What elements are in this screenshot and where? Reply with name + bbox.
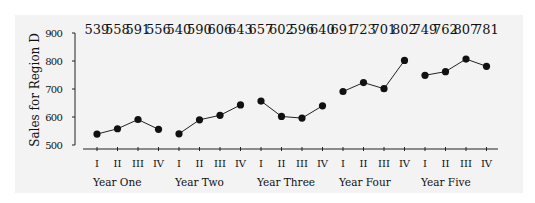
quarter-label: I bbox=[95, 158, 99, 169]
quarter-label: I bbox=[259, 158, 263, 169]
y-axis: 500600700800900 bbox=[45, 28, 75, 151]
data-point bbox=[462, 55, 469, 62]
year-group-label: Year Two bbox=[174, 176, 224, 188]
quarter-label: I bbox=[177, 158, 181, 169]
data-point bbox=[114, 125, 121, 132]
value-labels: 5395585915565405906066436576025966406917… bbox=[85, 22, 499, 37]
data-point bbox=[339, 88, 346, 95]
series-line bbox=[425, 59, 487, 75]
series-line bbox=[261, 101, 323, 118]
quarter-label: IV bbox=[235, 158, 247, 169]
data-point bbox=[483, 63, 490, 70]
quarter-label: IV bbox=[399, 158, 411, 169]
year-group-label: Year Four bbox=[338, 176, 392, 188]
data-point bbox=[155, 126, 162, 133]
y-tick-label: 500 bbox=[45, 140, 62, 151]
year-group-label: Year One bbox=[92, 176, 141, 188]
series-line bbox=[343, 60, 405, 91]
quarter-label: III bbox=[460, 158, 472, 169]
quarter-label: III bbox=[132, 158, 144, 169]
quarter-label: I bbox=[423, 158, 427, 169]
quarter-label: II bbox=[360, 158, 368, 169]
series-line bbox=[97, 120, 159, 135]
data-point bbox=[380, 85, 387, 92]
value-label: 781 bbox=[474, 22, 499, 37]
quarter-label: IV bbox=[153, 158, 165, 169]
data-point bbox=[401, 57, 408, 64]
quarter-label: II bbox=[442, 158, 450, 169]
quarter-label: IV bbox=[481, 158, 493, 169]
series-line bbox=[179, 105, 241, 134]
quarter-label: I bbox=[341, 158, 345, 169]
data-point bbox=[421, 72, 428, 79]
quarter-label: II bbox=[196, 158, 204, 169]
year-group-label: Year Three bbox=[256, 176, 315, 188]
data-point bbox=[278, 113, 285, 120]
quarter-label: IV bbox=[317, 158, 329, 169]
quarter-label: III bbox=[378, 158, 390, 169]
y-tick-label: 700 bbox=[45, 84, 62, 95]
data-point bbox=[257, 97, 264, 104]
quarter-label: III bbox=[214, 158, 226, 169]
data-point bbox=[319, 102, 326, 109]
data-point bbox=[298, 115, 305, 122]
y-tick-label: 600 bbox=[45, 112, 62, 123]
data-point bbox=[134, 116, 141, 123]
y-axis-title: Sales for Region D bbox=[28, 33, 42, 147]
quarter-label: II bbox=[114, 158, 122, 169]
data-point bbox=[442, 68, 449, 75]
data-lines bbox=[97, 59, 487, 134]
y-tick-label: 800 bbox=[45, 56, 62, 67]
data-point bbox=[237, 101, 244, 108]
quarter-label: II bbox=[278, 158, 286, 169]
data-point bbox=[196, 116, 203, 123]
data-point bbox=[175, 130, 182, 137]
data-point bbox=[360, 79, 367, 86]
data-point bbox=[216, 112, 223, 119]
data-points bbox=[93, 55, 490, 137]
data-point bbox=[93, 130, 100, 137]
y-tick-label: 900 bbox=[45, 28, 62, 39]
line-chart: 500600700800900 IIIIIIIVIIIIIIIVIIIIIIIV… bbox=[0, 0, 535, 203]
quarter-label: III bbox=[296, 158, 308, 169]
year-group-label: Year Five bbox=[420, 176, 471, 188]
x-axis: IIIIIIIVIIIIIIIVIIIIIIIVIIIIIIIVIIIIIIIV… bbox=[83, 147, 498, 188]
